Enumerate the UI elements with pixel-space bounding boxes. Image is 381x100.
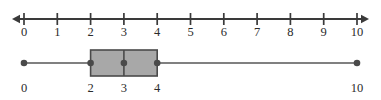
axis-tick-label-3: 3	[121, 25, 127, 39]
stat-label-4: 4	[154, 81, 161, 95]
box-plot-canvas: 012345678910023410	[0, 0, 381, 100]
box-plot-figure: 012345678910023410	[0, 0, 381, 100]
marker-dot-third-quartile	[154, 60, 161, 67]
axis-tick-label-4: 4	[154, 25, 161, 39]
axis-tick-label-1: 1	[54, 25, 60, 39]
axis-tick-label-9: 9	[321, 25, 327, 39]
stat-label-3: 3	[121, 81, 127, 95]
axis-left-arrow-icon	[12, 15, 20, 23]
axis-tick-label-10: 10	[351, 25, 364, 39]
marker-dot-first-quartile	[87, 60, 94, 67]
stat-label-10: 10	[351, 81, 364, 95]
axis-tick-label-7: 7	[254, 25, 260, 39]
axis-tick-label-5: 5	[187, 25, 193, 39]
marker-dot-median	[121, 60, 128, 67]
axis-tick-label-0: 0	[21, 25, 27, 39]
axis-tick-label-2: 2	[87, 25, 93, 39]
axis-right-arrow-icon	[361, 15, 369, 23]
axis-tick-label-6: 6	[221, 25, 227, 39]
marker-dot-maximum	[354, 60, 361, 67]
axis-tick-label-8: 8	[287, 25, 293, 39]
stat-label-2: 2	[87, 81, 93, 95]
marker-dot-minimum	[21, 60, 28, 67]
stat-label-0: 0	[21, 81, 27, 95]
